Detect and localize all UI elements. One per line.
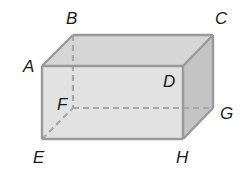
vertex-label-e: E bbox=[33, 148, 45, 167]
vertex-label-c: C bbox=[215, 9, 228, 28]
vertex-label-a: A bbox=[22, 57, 34, 76]
vertex-label-g: G bbox=[220, 104, 233, 123]
vertex-label-d: D bbox=[163, 72, 175, 91]
vertex-label-f: F bbox=[57, 95, 69, 114]
rectangular-prism-diagram: A B C D E F G H bbox=[0, 0, 244, 169]
vertex-label-b: B bbox=[66, 9, 77, 28]
vertex-label-h: H bbox=[176, 148, 189, 167]
